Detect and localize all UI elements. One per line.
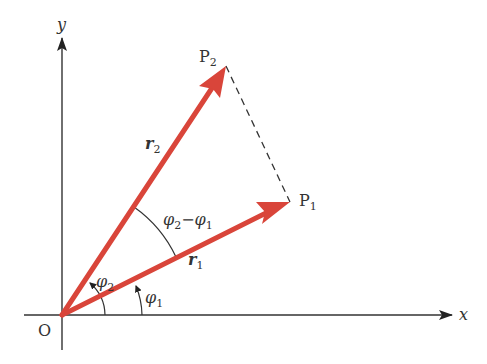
- angle-phi2-label: φ2: [96, 272, 114, 294]
- svg-text:P2: P2: [199, 47, 217, 69]
- svg-text:P1: P1: [299, 191, 317, 213]
- angle-phi2-minus-phi1-label: φ2−φ1: [163, 210, 213, 232]
- angle-arc-phi1: [136, 286, 142, 315]
- y-axis-label: y: [56, 15, 67, 34]
- x-axis-label: x: [459, 305, 468, 324]
- vector-r2-label: r2: [145, 134, 160, 156]
- vector-diagram: y x O P2 P1 r2 r1 φ2−φ1 φ2 φ1: [0, 0, 487, 364]
- svg-text:r1: r1: [188, 250, 203, 272]
- vector-r2: [62, 66, 226, 315]
- point-p1-label: P1: [299, 191, 317, 213]
- angle-phi1-label: φ1: [145, 288, 163, 310]
- svg-text:φ1: φ1: [145, 288, 163, 310]
- dashed-line-p1-p2: [226, 66, 290, 202]
- origin-label: O: [38, 321, 51, 340]
- svg-text:φ2: φ2: [96, 272, 114, 294]
- point-p2-label: P2: [199, 47, 217, 69]
- svg-text:φ2−φ1: φ2−φ1: [163, 210, 213, 232]
- svg-text:r2: r2: [145, 134, 160, 156]
- arrowhead-r2-icon: [199, 66, 226, 98]
- vector-r1-label: r1: [188, 250, 203, 272]
